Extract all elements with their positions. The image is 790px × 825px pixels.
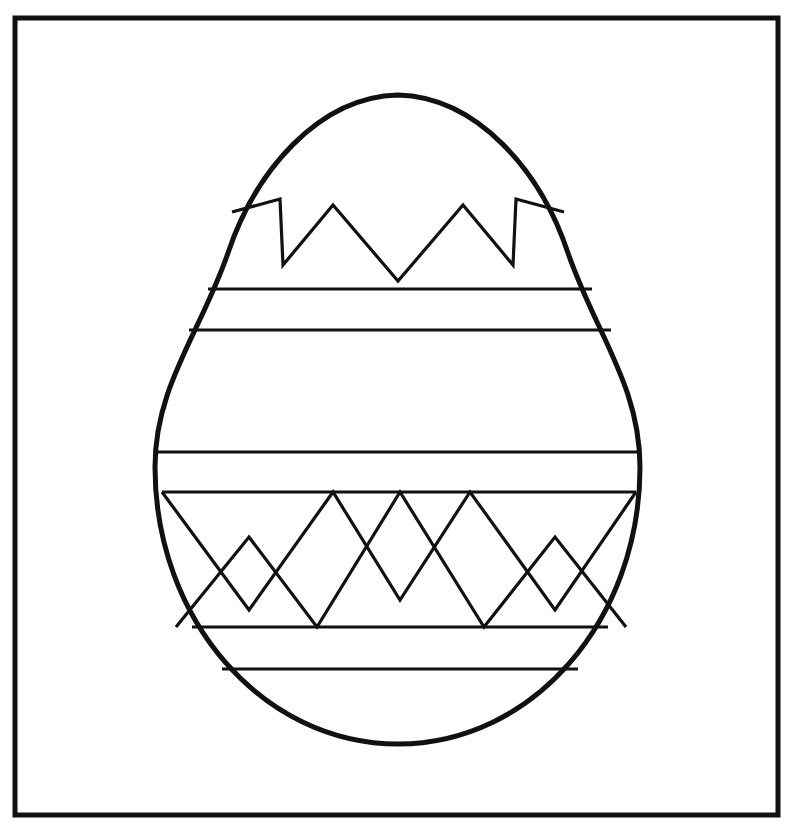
coloring-page-canvas [0,0,790,825]
easter-egg-artboard [0,0,790,825]
